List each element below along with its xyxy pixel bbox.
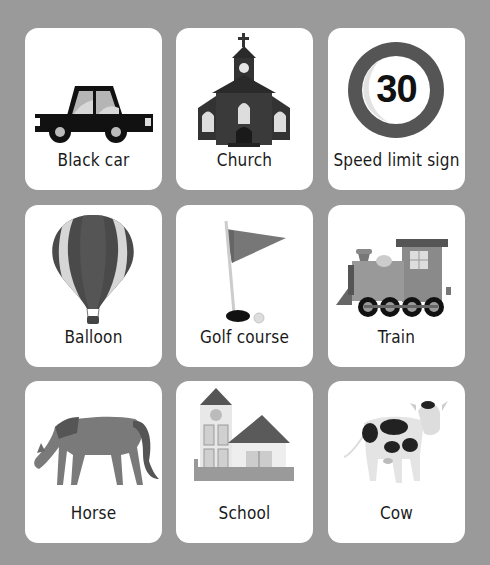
card-black-car[interactable]: Black car [25, 28, 162, 190]
card-train[interactable]: Train [328, 205, 465, 367]
card-golf-course[interactable]: Golf course [176, 205, 313, 367]
horse-icon [25, 381, 162, 503]
school-icon [176, 381, 313, 503]
steam-train-icon [328, 205, 465, 327]
church-icon [176, 28, 313, 150]
car-icon [25, 28, 162, 150]
card-school[interactable]: School [176, 381, 313, 543]
card-label: Golf course [176, 327, 313, 347]
card-label: Church [176, 150, 313, 170]
card-cow[interactable]: Cow [328, 381, 465, 543]
card-horse[interactable]: Horse [25, 381, 162, 543]
card-label: School [176, 503, 313, 523]
card-label: Black car [25, 150, 162, 170]
speed-limit-number: 30 [328, 68, 465, 111]
card-label: Cow [328, 503, 465, 523]
card-church[interactable]: Church [176, 28, 313, 190]
golf-flag-icon [176, 205, 313, 327]
speed-limit-sign-icon: 30 [328, 28, 465, 150]
card-speed-limit-sign[interactable]: 30 Speed limit sign [328, 28, 465, 190]
card-balloon[interactable]: Balloon [25, 205, 162, 367]
card-label: Balloon [25, 327, 162, 347]
card-label: Horse [25, 503, 162, 523]
cow-icon [328, 381, 465, 503]
card-label: Train [328, 327, 465, 347]
card-label: Speed limit sign [328, 150, 465, 170]
hot-air-balloon-icon [25, 205, 162, 327]
